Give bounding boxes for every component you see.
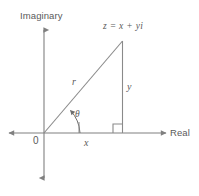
diagram-canvas	[0, 0, 199, 196]
radius-label: r	[72, 77, 76, 87]
complex-plane-diagram: Imaginary Real 0 z = x + yi r y x θ	[0, 0, 199, 196]
real-axis-label: Real	[170, 128, 190, 138]
radius-line	[44, 41, 123, 133]
angle-label: θ	[75, 110, 80, 120]
point-label: z = x + yi	[103, 22, 143, 32]
origin-label: 0	[33, 136, 39, 146]
right-angle-marker	[113, 124, 123, 133]
imaginary-part-label: y	[127, 82, 131, 92]
real-part-label: x	[84, 138, 88, 148]
imaginary-axis-label: Imaginary	[20, 11, 63, 21]
